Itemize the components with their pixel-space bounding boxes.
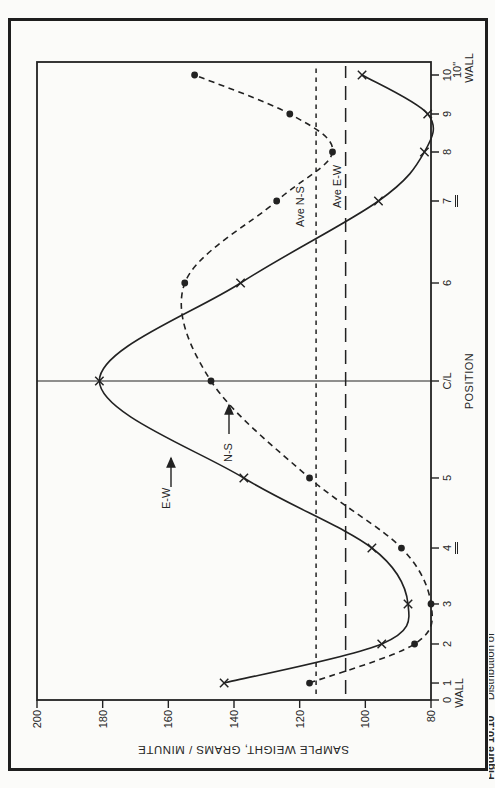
rotated-chart-container: SAMPLE WEIGHT, GRAMS / MINUTE POSITION W… (8, 18, 488, 771)
xtick-label: 7 (441, 188, 453, 214)
figure-caption-text: Figure 10.10 Distribution of (489, 633, 495, 780)
figure-caption-body: Distribution of (489, 633, 495, 700)
ytick-label: 100 (359, 710, 371, 740)
series-label-ns: N-S (222, 443, 234, 462)
xtick-label: 4 (441, 535, 453, 561)
ytick-label: 120 (294, 710, 306, 740)
xtick-label: 2 (441, 631, 453, 657)
average-line-label-ew: Ave E-W (331, 165, 343, 208)
xtick-label: 5 (441, 465, 453, 491)
ytick-label: 180 (97, 710, 109, 740)
figure-caption-number: Figure 10.10 (489, 716, 495, 780)
double-underline-mark (455, 195, 458, 207)
labels-layer: SAMPLE WEIGHT, GRAMS / MINUTE POSITION W… (8, 18, 488, 771)
series-label-ew: E-W (160, 488, 172, 509)
figure-caption-clipped: Figure 10.10 Distribution of (489, 0, 495, 788)
xtick-label: 1 (441, 670, 453, 696)
ytick-label: 140 (228, 710, 240, 740)
xtick-label: C/L (441, 368, 453, 394)
wall-label-right-line2: WALL (463, 48, 475, 88)
wall-label-left: WALL (453, 673, 465, 713)
double-underline-mark (455, 542, 458, 554)
xtick-label: 6 (441, 270, 453, 296)
x-axis-title: POSITION (463, 331, 475, 431)
ytick-label: 160 (162, 710, 174, 740)
xtick-label: 9 (441, 101, 453, 127)
average-line-label-ns: Ave N-S (294, 186, 306, 227)
xtick-label: 10 (441, 62, 453, 88)
ytick-label: 80 (425, 710, 437, 740)
ytick-label: 200 (31, 710, 43, 740)
y-axis-title: SAMPLE WEIGHT, GRAMS / MINUTE (126, 739, 361, 756)
scanned-page: { "figure": { "caption_label": "Figure 1… (0, 0, 495, 788)
xtick-label: 3 (441, 591, 453, 617)
xtick-label: 8 (441, 139, 453, 165)
